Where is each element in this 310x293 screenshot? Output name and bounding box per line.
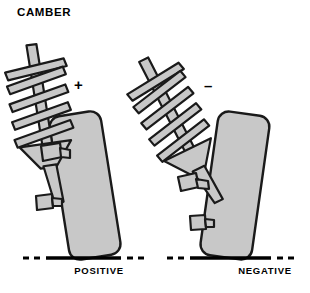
camber-diagram [0,0,310,293]
caption-negative: NEGATIVE [110,265,310,276]
positive-camber-sign: + [74,77,83,92]
assembly-left-positive [2,40,144,261]
negative-camber-sign: – [204,78,212,93]
